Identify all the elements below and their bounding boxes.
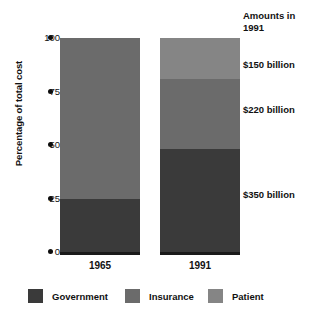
legend: Government Insurance Patient (0, 286, 320, 308)
bar-segment-1965-government (60, 199, 140, 253)
x-axis-label-1965: 1965 (60, 261, 140, 271)
bar-segment-1991-government (160, 149, 240, 252)
amount-label-insurance: $220 billion (243, 105, 320, 115)
bar-segment-1991-insurance (160, 79, 240, 150)
legend-item-patient: Patient (208, 286, 264, 306)
bar-1991 (160, 38, 240, 252)
legend-swatch-insurance (125, 289, 140, 303)
legend-label-patient: Patient (232, 291, 264, 302)
legend-item-insurance: Insurance (125, 286, 194, 306)
y-tick-label-50: 50 (18, 140, 60, 150)
bar-1965 (60, 38, 140, 252)
legend-label-insurance: Insurance (149, 291, 194, 302)
y-tick-dot-75 (48, 89, 53, 94)
bar-segment-1965-insurance (60, 38, 140, 199)
y-axis-title: Percentage of total cost (13, 34, 24, 194)
y-tick-dot-100 (48, 35, 53, 40)
y-tick-label-75: 75 (18, 87, 60, 97)
legend-item-government: Government (28, 286, 108, 306)
y-tick-dot-25 (48, 196, 53, 201)
amounts-header: Amounts in 1991 (243, 10, 319, 33)
amounts-header-line1: Amounts in (243, 10, 319, 22)
y-tick-dot-50 (48, 142, 53, 147)
legend-label-government: Government (52, 291, 108, 302)
amount-label-government: $350 billion (243, 190, 320, 200)
y-tick-label-0: 0 (18, 247, 60, 257)
y-tick-label-100: 100 (18, 33, 60, 43)
amount-label-patient: $150 billion (243, 60, 320, 70)
y-tick-dot-0 (48, 249, 53, 254)
stacked-bar-chart: Percentage of total cost 100 75 50 25 0 … (0, 0, 320, 316)
amounts-header-line2: 1991 (243, 22, 319, 34)
baseline-1965 (60, 252, 140, 255)
y-tick-label-25: 25 (18, 194, 60, 204)
bar-segment-1991-patient (160, 38, 240, 79)
legend-swatch-government (28, 289, 43, 303)
legend-swatch-patient (208, 289, 223, 303)
x-axis-label-1991: 1991 (160, 261, 240, 271)
baseline-1991 (160, 252, 240, 255)
